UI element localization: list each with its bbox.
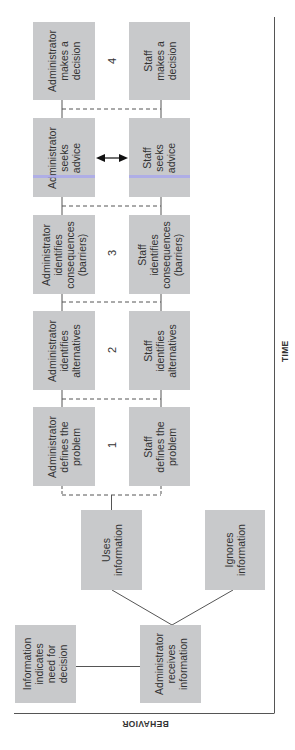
stage-number-4: 4 — [106, 58, 118, 64]
admin-decision-box: Administrator makes a decision — [33, 22, 95, 100]
admin-seeks-advice-box: Administrator seeks advice — [33, 118, 95, 197]
admin-consequences-box: Administrator identifies consequences (b… — [33, 215, 95, 294]
admin-consequences-label: Administrator identifies consequences (b… — [40, 221, 88, 289]
info-need-label: Information indicates need for decision — [22, 638, 70, 691]
staff-defines-label: Staff defines the problem — [142, 421, 178, 472]
staff-alternatives-box: Staff identifies alternatives — [129, 311, 190, 390]
ignores-info-label: Ignores information — [223, 524, 247, 576]
staff-consequences-box: Staff identifies consequences (barriers) — [129, 215, 190, 294]
staff-decision-box: Staff makes a decision — [129, 22, 190, 100]
info-need-box: Information indicates need for decision — [15, 625, 76, 703]
behavior-axis-label: BEHAVIOR — [122, 719, 169, 729]
staff-consequences-label: Staff identifies consequences (barriers) — [136, 221, 184, 289]
admin-defines-box: Administrator defines the problem — [33, 407, 95, 486]
admin-defines-label: Administrator defines the problem — [46, 416, 82, 478]
admin-alternatives-label: Administrator identifies alternatives — [46, 320, 82, 382]
time-axis-label: TIME — [280, 340, 290, 362]
staff-alternatives-label: Staff identifies alternatives — [141, 324, 177, 378]
admin-receives-box: Administrator receives information — [140, 625, 201, 703]
admin-seeks-advice-label: Administrator seeks advice — [46, 127, 82, 189]
admin-decision-label: Administrator makes a decision — [46, 30, 82, 92]
staff-seeks-advice-box: Staff seeks advice — [129, 118, 190, 197]
admin-alternatives-box: Administrator identifies alternatives — [33, 311, 95, 390]
staff-defines-box: Staff defines the problem — [129, 407, 190, 486]
arrow-right-icon — [119, 154, 128, 162]
staff-decision-label: Staff makes a decision — [142, 41, 178, 81]
scan-tint — [129, 175, 190, 178]
stage-number-1: 1 — [106, 442, 118, 448]
admin-receives-label: Administrator receives information — [153, 633, 189, 695]
stage-number-2: 2 — [106, 347, 118, 353]
ignores-info-box: Ignores information — [205, 510, 265, 590]
staff-seeks-advice-label: Staff seeks advice — [141, 142, 177, 172]
uses-info-label: Uses information — [99, 524, 123, 576]
stage-number-3: 3 — [106, 250, 118, 256]
arrow-left-icon — [96, 154, 105, 162]
scan-tint — [33, 175, 95, 178]
uses-info-box: Uses information — [81, 510, 142, 590]
